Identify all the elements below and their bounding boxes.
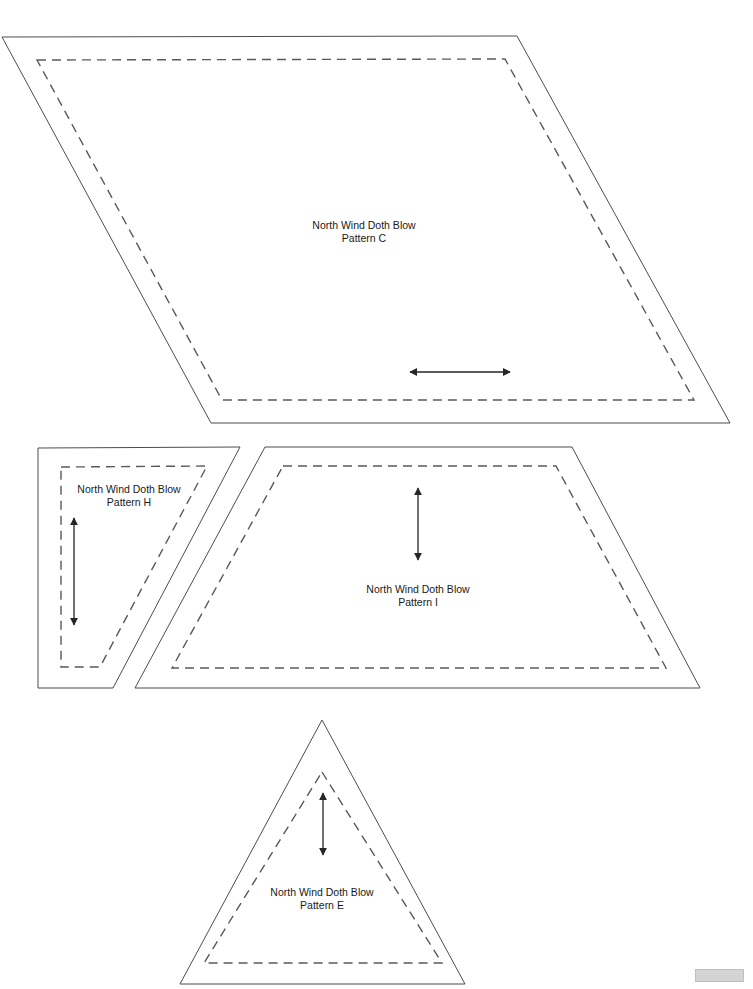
pattern-piece-e[interactable] [180,720,465,984]
pattern-e-label: North Wind Doth Blow Pattern E [237,886,407,912]
page-corner-marker [695,969,744,982]
pattern-e-label-line2: Pattern E [237,899,407,912]
pattern-h-label-line1: North Wind Doth Blow [77,483,180,495]
pattern-i-label-line2: Pattern I [333,596,503,609]
pattern-i-label: North Wind Doth Blow Pattern I [333,583,503,609]
pattern-c-label-line1: North Wind Doth Blow [312,219,415,231]
pattern-c-label: North Wind Doth Blow Pattern C [279,219,449,245]
pattern-c-label-line2: Pattern C [279,232,449,245]
pattern-sheet: North Wind Doth Blow Pattern C North Win… [0,0,753,989]
pattern-e-label-line1: North Wind Doth Blow [270,886,373,898]
pattern-h-label-line2: Pattern H [44,496,214,509]
pattern-h-label: North Wind Doth Blow Pattern H [44,483,214,509]
pattern-i-label-line1: North Wind Doth Blow [366,583,469,595]
